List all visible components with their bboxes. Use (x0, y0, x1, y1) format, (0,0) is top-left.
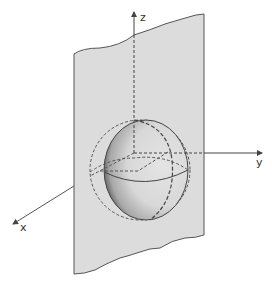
diagram: z y x (0, 0, 272, 282)
x-axis-label: x (20, 221, 27, 234)
hemisphere (104, 120, 188, 220)
y-axis-label: y (256, 156, 263, 169)
z-axis-label: z (140, 11, 146, 24)
